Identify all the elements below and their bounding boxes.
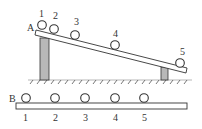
horizontal-plank (16, 103, 187, 109)
incline-ball-4 (111, 41, 120, 50)
incline-ball-5 (176, 59, 185, 68)
incline-end-label: A (27, 22, 35, 33)
horizontal-end-label: B (9, 93, 16, 104)
horizontal-ball-label-2: 2 (53, 112, 58, 123)
horizontal-ball-3 (81, 94, 90, 103)
horizontal-ball-label-4: 4 (113, 112, 118, 123)
incline-ball-label-3: 3 (74, 16, 79, 27)
left-support-post (40, 38, 49, 80)
incline-ball-3 (71, 31, 80, 40)
incline-ball-label-4: 4 (113, 28, 118, 39)
horizontal-ball-label-1: 1 (23, 112, 28, 123)
horizontal-ball-label-5: 5 (142, 112, 147, 123)
incline-ball-1 (38, 21, 47, 30)
incline-experiment-diagram: A 1 2 3 4 5 B 1 2 3 4 5 (0, 0, 202, 129)
horizontal-ball-label-3: 3 (83, 112, 88, 123)
horizontal-balls (22, 94, 149, 103)
incline-ball-2 (50, 25, 59, 34)
horizontal-ball-2 (51, 94, 60, 103)
incline-balls (38, 21, 185, 68)
ground-hatching (28, 80, 192, 84)
horizontal-ball-1 (22, 94, 31, 103)
right-support-post (161, 67, 168, 80)
horizontal-ball-4 (111, 94, 120, 103)
inclined-plank (35, 30, 187, 73)
incline-ball-label-5: 5 (180, 46, 185, 57)
incline-ball-label-1: 1 (39, 8, 44, 19)
incline-ball-label-2: 2 (53, 10, 58, 21)
horizontal-ball-5 (140, 94, 149, 103)
